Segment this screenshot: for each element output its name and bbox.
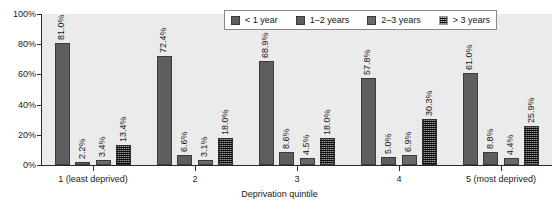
bar [218, 138, 233, 165]
x-tick-label: 2 [192, 174, 197, 184]
bar-value-label: 81.0% [57, 14, 66, 40]
bar-group: 57.8%5.0%6.9%30.3% [348, 14, 450, 165]
bar [463, 73, 478, 165]
bar [483, 152, 498, 165]
x-tick-label: 1 (least deprived) [58, 174, 128, 184]
bar-value-label: 6.9% [404, 131, 413, 152]
x-tick-label: 5 (most deprived) [466, 174, 536, 184]
bar [55, 43, 70, 165]
x-tick-label: 3 [294, 174, 299, 184]
bar-chart: 0%20%40%60%80%100% Deprivation quintile … [0, 0, 559, 211]
bar [177, 155, 192, 165]
y-axis: 0%20%40%60%80%100% [0, 0, 36, 211]
y-tick-label: 100% [2, 10, 36, 19]
bar [320, 138, 335, 165]
bar-value-label: 25.9% [527, 97, 536, 123]
x-tick-mark [501, 166, 502, 171]
bar-value-label: 57.8% [363, 49, 372, 75]
y-tick-label: 60% [2, 70, 36, 79]
bar [422, 119, 437, 165]
bar-value-label: 68.9% [261, 32, 270, 58]
x-axis-title: Deprivation quintile [0, 189, 559, 199]
bar-value-label: 30.3% [425, 91, 434, 117]
bar-value-label: 3.4% [98, 136, 107, 157]
y-tick-mark [37, 165, 42, 166]
bar [504, 158, 519, 165]
bar [75, 162, 90, 165]
y-tick-label: 0% [2, 161, 36, 170]
bar [279, 152, 294, 165]
x-tick-mark [93, 166, 94, 171]
bar-value-label: 4.5% [302, 135, 311, 156]
bar [157, 56, 172, 165]
bar-value-label: 18.0% [221, 109, 230, 135]
bar-group: 68.9%8.6%4.5%18.0% [246, 14, 348, 165]
bar [402, 155, 417, 165]
bar [300, 158, 315, 165]
bar-value-label: 72.4% [159, 27, 168, 53]
y-tick-label: 40% [2, 101, 36, 110]
bar-value-label: 8.6% [282, 129, 291, 150]
bar-value-label: 61.0% [465, 44, 474, 70]
x-tick-mark [195, 166, 196, 171]
bar [259, 61, 274, 165]
bar-value-label: 13.4% [119, 116, 128, 142]
bar-value-label: 4.4% [506, 135, 515, 156]
bar-value-label: 5.0% [384, 134, 393, 155]
bar-group: 61.0%8.8%4.4%25.9% [450, 14, 552, 165]
bar [116, 145, 131, 165]
bar-value-label: 3.1% [200, 137, 209, 158]
y-tick-label: 80% [2, 40, 36, 49]
bar [381, 157, 396, 165]
x-tick-mark [297, 166, 298, 171]
bar-value-label: 18.0% [323, 109, 332, 135]
bar-group: 72.4%6.6%3.1%18.0% [144, 14, 246, 165]
bar [198, 160, 213, 165]
x-tick-label: 4 [396, 174, 401, 184]
x-tick-mark [399, 166, 400, 171]
y-tick-label: 20% [2, 131, 36, 140]
bar-value-label: 8.8% [486, 128, 495, 149]
bar [524, 126, 539, 165]
bar-value-label: 2.2% [78, 138, 87, 159]
bar-group: 81.0%2.2%3.4%13.4% [42, 14, 144, 165]
bar [361, 78, 376, 165]
bar [96, 160, 111, 165]
bar-value-label: 6.6% [180, 132, 189, 153]
